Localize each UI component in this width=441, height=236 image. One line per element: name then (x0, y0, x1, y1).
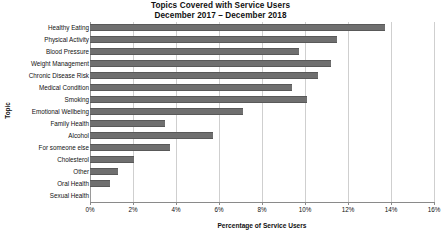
bar-row[interactable] (90, 130, 434, 142)
y-axis-category-label: Sexual Health (0, 190, 89, 202)
bar-row[interactable] (90, 142, 434, 154)
bar-row[interactable] (90, 82, 434, 94)
y-axis-category-label: Healthy Eating (0, 22, 89, 34)
chart-title-line-1: Topics Covered with Service Users (0, 1, 441, 11)
chart-title: Topics Covered with Service Users Decemb… (0, 1, 441, 21)
x-axis-tick (90, 202, 91, 205)
bar[interactable] (90, 72, 318, 79)
bar[interactable] (90, 120, 165, 127)
x-axis-tick (348, 202, 349, 205)
y-axis-category-label: Oral Health (0, 178, 89, 190)
bar-chart: Topics Covered with Service Users Decemb… (0, 0, 441, 236)
plot-area (90, 22, 434, 202)
x-axis-tick (133, 202, 134, 205)
bar-row[interactable] (90, 58, 434, 70)
bar[interactable] (90, 132, 213, 139)
x-axis-tick-label: 2% (118, 206, 148, 213)
x-axis-tick (305, 202, 306, 205)
y-axis-category-label: Chronic Disease Risk (0, 70, 89, 82)
bar[interactable] (90, 108, 243, 115)
y-axis-category-label: Other (0, 166, 89, 178)
y-axis-category-label: Medical Condition (0, 82, 89, 94)
x-axis-tick-label: 0% (75, 206, 105, 213)
x-axis-tick (176, 202, 177, 205)
bar[interactable] (90, 96, 307, 103)
y-axis-category-label: Emotional Wellbeing (0, 106, 89, 118)
y-axis-category-label: For someone else (0, 142, 89, 154)
bar-row[interactable] (90, 166, 434, 178)
bar[interactable] (90, 156, 134, 163)
bar[interactable] (90, 144, 170, 151)
x-axis-tick-label: 8% (247, 206, 277, 213)
bar[interactable] (90, 48, 299, 55)
y-axis-category-label: Blood Pressure (0, 46, 89, 58)
gridline-x (434, 22, 435, 202)
x-axis-title: Percentage of Service Users (90, 222, 434, 229)
x-axis-tick-label: 6% (204, 206, 234, 213)
y-axis-category-label: Alcohol (0, 130, 89, 142)
bar[interactable] (90, 36, 337, 43)
x-axis-tick (434, 202, 435, 205)
bar-row[interactable] (90, 70, 434, 82)
bar-row[interactable] (90, 34, 434, 46)
x-axis-tick (391, 202, 392, 205)
bar[interactable] (90, 24, 385, 31)
bar-row[interactable] (90, 106, 434, 118)
bar-row[interactable] (90, 118, 434, 130)
x-axis-tick-label: 12% (333, 206, 363, 213)
y-axis-category-label: Smoking (0, 94, 89, 106)
bar-row[interactable] (90, 154, 434, 166)
y-axis-category-label: Family Health (0, 118, 89, 130)
bar[interactable] (90, 60, 331, 67)
y-axis-category-label: Cholesterol (0, 154, 89, 166)
y-axis-category-label: Physical Activity (0, 34, 89, 46)
x-axis-tick (262, 202, 263, 205)
bar-row[interactable] (90, 178, 434, 190)
x-axis-tick (219, 202, 220, 205)
x-axis-tick-label: 10% (290, 206, 320, 213)
bar-row[interactable] (90, 46, 434, 58)
x-axis-tick-label: 4% (161, 206, 191, 213)
bar[interactable] (90, 168, 118, 175)
bar[interactable] (90, 84, 292, 91)
bar-row[interactable] (90, 190, 434, 202)
bar[interactable] (90, 180, 110, 187)
y-axis-category-label: Weight Management (0, 58, 89, 70)
bar-row[interactable] (90, 22, 434, 34)
x-axis-tick-label: 16% (419, 206, 441, 213)
x-axis-tick-label: 14% (376, 206, 406, 213)
bar-row[interactable] (90, 94, 434, 106)
chart-title-line-2: December 2017 – December 2018 (0, 11, 441, 21)
